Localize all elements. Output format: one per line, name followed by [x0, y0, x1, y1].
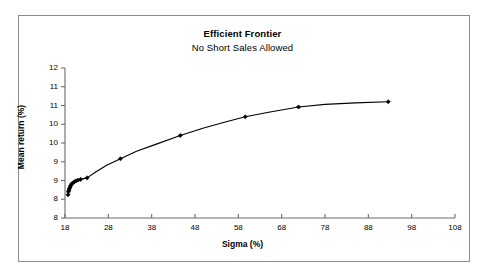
data-point-marker [118, 157, 122, 161]
y-tick-label: 10 [49, 119, 58, 128]
y-tick-label: 11 [50, 82, 59, 91]
y-tick-label: 11 [50, 101, 59, 110]
chart-figure: Efficient Frontier No Short Sales Allowe… [0, 0, 485, 275]
y-tick-label: 9 [54, 157, 59, 166]
x-tick-label: 58 [234, 223, 243, 232]
y-tick-label: 10 [49, 138, 58, 147]
x-tick-label: 108 [448, 223, 462, 232]
data-point-marker [296, 105, 300, 109]
plot-area: 88991010111112 182838485868788898108 [0, 0, 485, 275]
x-tick-label: 78 [321, 223, 330, 232]
y-tick-label: 12 [49, 63, 58, 72]
series-line [68, 102, 388, 195]
x-tick-label: 28 [104, 223, 113, 232]
y-axis: 88991010111112 [49, 63, 65, 222]
x-axis: 182838485868788898108 [61, 214, 463, 232]
data-series-efficient-frontier [66, 100, 390, 197]
x-tick-label: 88 [364, 223, 373, 232]
y-tick-label: 8 [54, 194, 59, 203]
x-tick-label: 48 [191, 223, 200, 232]
x-tick-label: 38 [147, 223, 156, 232]
data-point-marker [386, 100, 390, 104]
x-tick-label: 18 [61, 223, 70, 232]
x-tick-label: 98 [407, 223, 416, 232]
y-tick-label: 9 [54, 176, 59, 185]
data-point-marker [243, 115, 247, 119]
data-point-marker [178, 133, 182, 137]
x-tick-label: 68 [277, 223, 286, 232]
y-tick-label: 8 [54, 213, 59, 222]
